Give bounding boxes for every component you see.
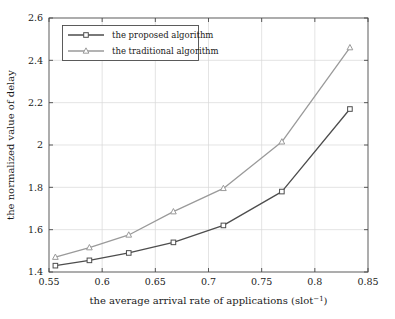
data-point-marker [87, 258, 92, 263]
y-tick-label: 2.4 [28, 55, 43, 66]
data-point-marker [221, 223, 226, 228]
square-marker-icon [84, 33, 89, 38]
y-tick-label: 2.6 [28, 12, 43, 23]
chart-figure: 0.550.60.650.70.750.80.85 1.41.61.822.22… [0, 0, 395, 319]
legend-label: the traditional algorithm [112, 46, 219, 56]
y-tick-label: 2.2 [28, 97, 43, 108]
x-tick-label: 0.75 [251, 276, 272, 287]
y-tick-label: 1.4 [28, 266, 43, 277]
data-point-marker [348, 107, 353, 112]
y-axis-tick-labels: 1.41.61.822.22.42.6 [28, 12, 43, 277]
y-tick-label: 1.6 [28, 224, 43, 235]
x-tick-label: 0.6 [95, 276, 110, 287]
x-tick-label: 0.55 [38, 276, 59, 287]
legend-label: the proposed algorithm [112, 30, 213, 40]
x-axis-tick-labels: 0.550.60.650.70.750.80.85 [38, 276, 378, 287]
x-tick-label: 0.8 [307, 276, 322, 287]
data-point-marker [280, 189, 285, 194]
y-axis-title: the normalized value of delay [5, 70, 16, 220]
line-chart: 0.550.60.650.70.750.80.85 1.41.61.822.22… [0, 0, 395, 319]
y-tick-label: 1.8 [28, 182, 43, 193]
data-point-marker [126, 251, 131, 256]
x-tick-label: 0.7 [201, 276, 216, 287]
x-tick-label: 0.85 [357, 276, 378, 287]
x-axis-title: the average arrival rate of applications… [89, 295, 327, 307]
data-point-marker [53, 263, 58, 268]
data-point-marker [171, 240, 176, 245]
y-tick-label: 2 [37, 139, 43, 150]
chart-legend: the proposed algorithmthe traditional al… [63, 26, 219, 61]
x-tick-label: 0.65 [145, 276, 166, 287]
